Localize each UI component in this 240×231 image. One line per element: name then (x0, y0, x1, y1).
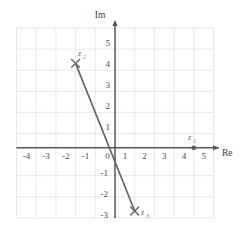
x-tick--3: -3 (42, 151, 50, 161)
point-label-z3-sub: 3 (145, 213, 149, 219)
re-axis-label: Re (222, 148, 233, 158)
im-axis-label: Im (95, 10, 106, 20)
point-label-z2-text: z (77, 49, 82, 58)
y-tick-1: 1 (106, 122, 111, 132)
x-tick-3: 3 (162, 151, 167, 161)
x-tick--1: -1 (82, 151, 90, 161)
y-tick-3: 3 (106, 80, 111, 90)
x-tick--4: -4 (23, 151, 31, 161)
y-tick-2: 2 (106, 101, 111, 111)
x-tick-5: 5 (201, 151, 206, 161)
point-label-z1-text: z (187, 133, 192, 142)
y-tick--2: -2 (101, 189, 109, 199)
point-label-z3-text: z (140, 208, 145, 217)
point-label-z2: z 2 (77, 49, 86, 60)
x-tick-2: 2 (142, 151, 147, 161)
x-tick-1: 1 (123, 151, 128, 161)
point-label-z3: z 3 (140, 208, 149, 219)
point-label-z1: z 1 (187, 133, 196, 144)
complex-plane-svg: Im Re -4 -3 -2 -1 0 1 2 3 4 5 -1 -2 -3 1… (0, 0, 240, 231)
y-tick--1: -1 (101, 168, 109, 178)
im-axis-arrowhead (112, 20, 117, 26)
y-tick-5: 5 (106, 38, 111, 48)
point-label-z2-sub: 2 (83, 54, 86, 60)
axis-lines (17, 22, 220, 218)
y-tick--3: -3 (101, 210, 109, 220)
x-tick-0: 0 (105, 151, 110, 161)
x-tick--2: -2 (62, 151, 70, 161)
re-axis-arrowhead (213, 145, 219, 150)
x-tick-4: 4 (182, 151, 187, 161)
marker-z1[interactable] (191, 145, 196, 150)
y-tick-4: 4 (106, 59, 111, 69)
point-label-z1-sub: 1 (193, 138, 196, 144)
argand-diagram: Im Re -4 -3 -2 -1 0 1 2 3 4 5 -1 -2 -3 1… (0, 0, 240, 231)
